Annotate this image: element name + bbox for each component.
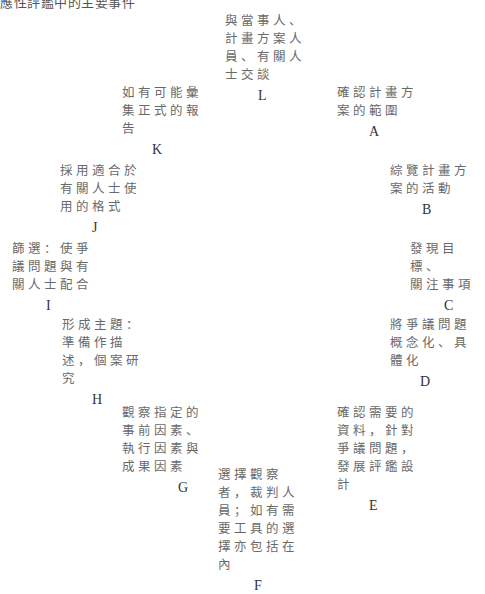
node-j-letter: J <box>60 219 140 237</box>
node-i-letter: I <box>12 297 92 315</box>
node-a: 確認計畫方 案的範圍 A <box>337 84 417 141</box>
node-h: 形成主題： 準備作描 述，個案研 究 H <box>62 316 142 409</box>
node-i: 篩選：使爭 議問題與有 關人士配合 I <box>12 240 92 315</box>
node-a-letter: A <box>337 123 417 141</box>
node-b-letter: B <box>390 201 470 219</box>
node-g-text: 觀察指定的 事前因素、 執行因素與 成果因素 <box>122 404 202 476</box>
node-f-letter: F <box>218 577 298 594</box>
node-h-text: 形成主題： 準備作描 述，個案研 究 <box>62 316 142 388</box>
node-b-text: 綜覽計畫方 案的活動 <box>390 162 470 198</box>
node-b: 綜覽計畫方 案的活動 B <box>390 162 470 219</box>
node-e-letter: E <box>337 497 417 515</box>
node-e-text: 確認需要的 資料，針對 爭議問題， 發展評鑑設 計 <box>337 404 417 494</box>
node-c-letter: C <box>410 297 485 315</box>
node-d: 將爭議問題 概念化、具 體化 D <box>390 316 470 391</box>
node-i-text: 篩選：使爭 議問題與有 關人士配合 <box>12 240 92 294</box>
node-e: 確認需要的 資料，針對 爭議問題， 發展評鑑設 計 E <box>337 404 417 515</box>
node-k: 如有可能彙 集正式的報 告 K <box>122 84 202 159</box>
node-c-text: 發現目標、 關注事項 <box>410 240 485 294</box>
node-f: 選擇觀察 者，裁判人 員；如有需 要工具的選 擇亦包括在 內 F <box>218 466 298 594</box>
node-k-text: 如有可能彙 集正式的報 告 <box>122 84 202 138</box>
node-g: 觀察指定的 事前因素、 執行因素與 成果因素 G <box>122 404 202 497</box>
node-l: 與當事人、 計畫方案人 員、有關人 士交談 L <box>225 12 305 105</box>
node-c: 發現目標、 關注事項 C <box>410 240 485 315</box>
node-j-text: 採用適合於 有關人士使 用的格式 <box>60 162 140 216</box>
node-k-letter: K <box>122 141 202 159</box>
node-d-letter: D <box>390 373 470 391</box>
node-g-letter: G <box>122 479 202 497</box>
node-a-text: 確認計畫方 案的範圍 <box>337 84 417 120</box>
node-d-text: 將爭議問題 概念化、具 體化 <box>390 316 470 370</box>
node-j: 採用適合於 有關人士使 用的格式 J <box>60 162 140 237</box>
node-l-letter: L <box>225 87 305 105</box>
node-l-text: 與當事人、 計畫方案人 員、有關人 士交談 <box>225 12 305 84</box>
node-f-text: 選擇觀察 者，裁判人 員；如有需 要工具的選 擇亦包括在 內 <box>218 466 298 574</box>
diagram-title: 應性評鑑中的主要事件 <box>0 0 135 11</box>
